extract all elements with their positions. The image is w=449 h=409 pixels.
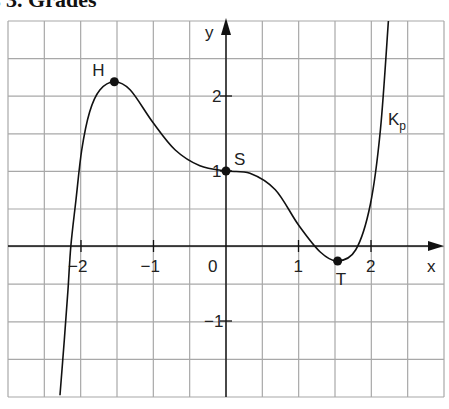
x-axis-label: x xyxy=(427,257,436,276)
curve-label-kp: Kp xyxy=(388,110,406,133)
curve-label-subscript: p xyxy=(399,119,406,133)
y-tick-label: −1 xyxy=(204,312,223,331)
x-tick-label: 1 xyxy=(294,257,303,276)
x-tick-label: −2 xyxy=(68,257,87,276)
x-tick-label: −1 xyxy=(141,257,160,276)
point-h xyxy=(110,77,119,86)
point-label-t: T xyxy=(336,270,346,289)
x-tick-label: 0 xyxy=(208,257,217,276)
y-tick-label: 2 xyxy=(212,87,221,106)
point-label-s: S xyxy=(234,150,245,169)
point-s xyxy=(222,167,231,176)
curve-kp xyxy=(60,21,388,395)
function-graph: xy−2−101221−1KpHST xyxy=(0,0,449,409)
y-axis-label: y xyxy=(205,23,214,42)
point-t xyxy=(333,257,342,266)
x-tick-label: 2 xyxy=(366,257,375,276)
x-axis-arrow-icon xyxy=(428,241,444,251)
y-tick-label: 1 xyxy=(212,162,221,181)
point-label-h: H xyxy=(92,61,104,80)
